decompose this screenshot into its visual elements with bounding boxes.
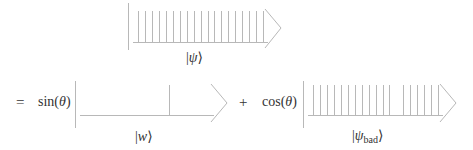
grover-vector-diagram — [0, 0, 473, 150]
psi-bad-label: |ψbad⟩ — [352, 129, 383, 145]
psi-label: |ψ⟩ — [186, 51, 203, 65]
w-vector-arrowhead — [211, 84, 227, 122]
plus-sign: + — [239, 95, 247, 110]
psi-bad-vector-arrowhead — [440, 84, 456, 122]
cos-theta-coefficient: cos(θ) — [262, 95, 297, 109]
w-vector — [76, 81, 228, 128]
sin-theta-coefficient: sin(θ) — [38, 95, 71, 109]
psi-bad-vector-ticks — [314, 85, 439, 116]
psi-vector — [129, 3, 282, 50]
psi-vector-ticks — [139, 11, 264, 43]
w-label: |w⟩ — [135, 130, 153, 144]
psi-bad-vector — [304, 81, 457, 128]
equals-sign: = — [16, 95, 24, 110]
